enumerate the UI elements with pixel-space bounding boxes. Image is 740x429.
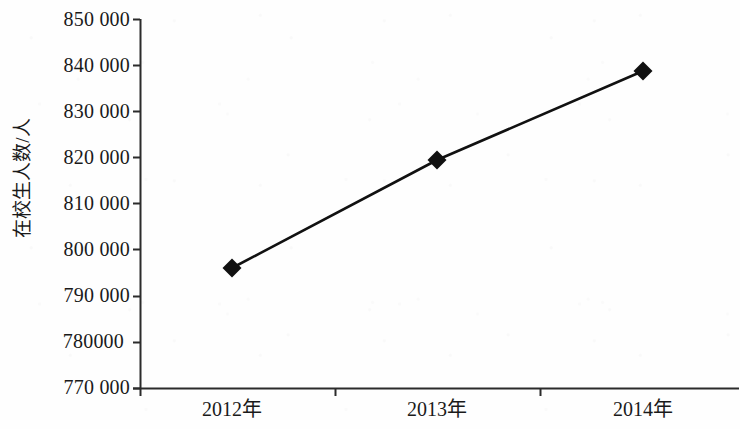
y-axis-ticks xyxy=(133,20,140,389)
data-point-marker[interactable] xyxy=(223,259,242,278)
data-point-marker[interactable] xyxy=(634,62,653,81)
data-line xyxy=(232,71,643,268)
data-point-marker[interactable] xyxy=(428,151,447,170)
plot-area xyxy=(0,0,740,429)
chart-page: 在校生人数/人 850 000 840 000 830 000 820 000 … xyxy=(0,0,740,429)
